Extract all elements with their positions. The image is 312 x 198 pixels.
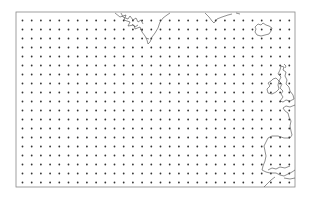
grid-dot bbox=[160, 65, 162, 67]
grid-dot bbox=[261, 155, 263, 157]
grid-dot bbox=[270, 110, 272, 112]
grid-dot bbox=[233, 137, 235, 139]
grid-dot bbox=[224, 146, 226, 148]
grid-dot bbox=[123, 155, 125, 157]
grid-dot bbox=[252, 155, 254, 157]
grid-dot bbox=[86, 182, 88, 184]
grid-dot bbox=[104, 155, 106, 157]
grid-dot bbox=[279, 29, 281, 31]
grid-dot bbox=[114, 56, 116, 58]
grid-dot bbox=[49, 83, 51, 85]
grid-dot bbox=[224, 29, 226, 31]
grid-dot bbox=[224, 137, 226, 139]
grid-dot bbox=[187, 74, 189, 76]
grid-dot bbox=[114, 128, 116, 130]
grid-dot bbox=[104, 146, 106, 148]
grid-dot bbox=[261, 128, 263, 130]
grid-dot bbox=[196, 74, 198, 76]
grid-dot bbox=[123, 101, 125, 103]
grid-dot bbox=[215, 155, 217, 157]
grid-dot bbox=[169, 173, 171, 175]
grid-dot bbox=[270, 74, 272, 76]
grid-dot bbox=[95, 182, 97, 184]
grid-dot bbox=[288, 182, 290, 184]
grid-dot bbox=[104, 110, 106, 112]
grid-dot bbox=[123, 74, 125, 76]
grid-dot bbox=[242, 164, 244, 166]
grid-dot bbox=[86, 29, 88, 31]
grid-dot bbox=[86, 119, 88, 121]
grid-dot bbox=[22, 182, 24, 184]
grid-dot bbox=[58, 92, 60, 94]
grid-dot bbox=[22, 137, 24, 139]
grid-dot bbox=[22, 65, 24, 67]
grid-dot bbox=[169, 83, 171, 85]
grid-dot bbox=[215, 137, 217, 139]
grid-dot bbox=[132, 182, 134, 184]
grid-dot bbox=[169, 128, 171, 130]
grid-dot bbox=[288, 56, 290, 58]
grid-dot bbox=[49, 173, 51, 175]
grid-dot bbox=[150, 110, 152, 112]
grid-dot bbox=[31, 182, 33, 184]
grid-dot bbox=[95, 164, 97, 166]
map-canvas bbox=[0, 0, 312, 198]
grid-dot bbox=[31, 164, 33, 166]
grid-dot bbox=[242, 47, 244, 49]
grid-dot bbox=[104, 56, 106, 58]
grid-dot bbox=[224, 47, 226, 49]
grid-dot bbox=[77, 38, 79, 40]
grid-dot bbox=[196, 92, 198, 94]
grid-dot bbox=[206, 173, 208, 175]
grid-dot bbox=[31, 101, 33, 103]
grid-dot bbox=[160, 137, 162, 139]
grid-dot bbox=[132, 83, 134, 85]
grid-dot bbox=[150, 56, 152, 58]
grid-dot bbox=[242, 65, 244, 67]
grid-dot bbox=[86, 155, 88, 157]
grid-dot bbox=[58, 128, 60, 130]
grid-dot bbox=[224, 119, 226, 121]
grid-dot bbox=[68, 137, 70, 139]
grid-dot bbox=[150, 65, 152, 67]
grid-dot bbox=[104, 182, 106, 184]
grid-dot bbox=[270, 182, 272, 184]
grid-dot bbox=[279, 92, 281, 94]
grid-dot bbox=[22, 119, 24, 121]
grid-dot bbox=[288, 20, 290, 22]
grid-dot bbox=[40, 65, 42, 67]
grid-dot bbox=[141, 74, 143, 76]
grid-dot bbox=[141, 38, 143, 40]
grid-dot bbox=[150, 92, 152, 94]
grid-dot bbox=[178, 110, 180, 112]
grid-dot bbox=[279, 128, 281, 130]
grid-dot bbox=[270, 146, 272, 148]
grid-dot bbox=[242, 83, 244, 85]
grid-dot bbox=[68, 155, 70, 157]
grid-dot bbox=[160, 74, 162, 76]
grid-dot bbox=[150, 146, 152, 148]
grid-dot bbox=[169, 155, 171, 157]
grid-dot bbox=[31, 92, 33, 94]
grid-dot bbox=[242, 74, 244, 76]
grid-dot bbox=[77, 119, 79, 121]
grid-dot bbox=[123, 92, 125, 94]
grid-dot bbox=[224, 65, 226, 67]
grid-dot bbox=[114, 92, 116, 94]
grid-dot bbox=[270, 101, 272, 103]
grid-dot bbox=[252, 47, 254, 49]
grid-dot bbox=[288, 164, 290, 166]
grid-dot bbox=[150, 74, 152, 76]
grid-dot bbox=[77, 83, 79, 85]
grid-dot bbox=[40, 155, 42, 157]
grid-dot bbox=[261, 146, 263, 148]
grid-dot bbox=[86, 56, 88, 58]
grid-dot bbox=[104, 92, 106, 94]
grid-dot bbox=[252, 119, 254, 121]
grid-dot bbox=[215, 146, 217, 148]
grid-dot bbox=[77, 128, 79, 130]
grid-dot bbox=[160, 146, 162, 148]
grid-dot bbox=[178, 173, 180, 175]
grid-dot bbox=[252, 20, 254, 22]
grid-dot bbox=[22, 38, 24, 40]
